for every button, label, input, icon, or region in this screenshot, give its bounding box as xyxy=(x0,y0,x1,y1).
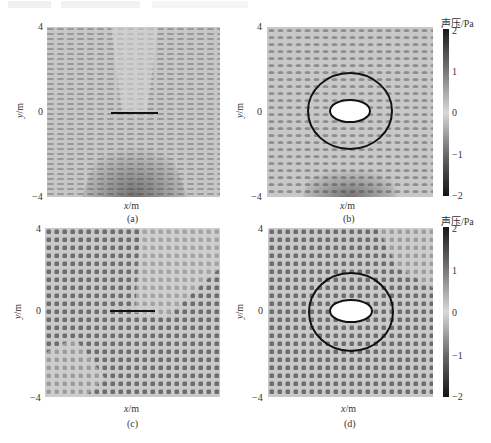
cbar-tick: −1 xyxy=(452,150,463,160)
ylabel: y/m xyxy=(234,103,245,118)
xlabel: x/m xyxy=(124,403,139,414)
ytick-bottom: −4 xyxy=(252,393,263,403)
cbar-tick: −2 xyxy=(452,392,463,402)
colorbar-gradient xyxy=(443,227,449,397)
ylabel: y/m xyxy=(14,103,25,118)
ytick-mid: 0 xyxy=(258,306,263,316)
heatmap-a xyxy=(47,27,220,197)
ylabel: y/m xyxy=(12,304,23,319)
xlabel: x/m xyxy=(341,403,356,414)
cbar-tick: 0 xyxy=(452,308,457,318)
colorbar-title: 声压/Pa xyxy=(441,15,474,30)
subfigure-label: (a) xyxy=(127,213,138,224)
subfigure-label: (b) xyxy=(343,213,355,224)
ytick-top: 4 xyxy=(258,224,263,234)
heatmap-d xyxy=(268,228,433,397)
cbar-tick: −1 xyxy=(452,351,463,361)
xlabel: x/m xyxy=(124,200,139,211)
ytick-bottom: −4 xyxy=(30,393,41,403)
colorbar-gradient xyxy=(443,29,449,196)
cbar-tick: 2 xyxy=(452,26,457,36)
heatmap-c xyxy=(45,228,220,397)
cbar-tick: 1 xyxy=(452,67,457,77)
cloak-inner-ellipse xyxy=(330,300,372,322)
cbar-tick: 1 xyxy=(452,266,457,276)
ytick-mid: 0 xyxy=(257,107,262,117)
ytick-top: 4 xyxy=(36,224,41,234)
ylabel: y/m xyxy=(234,304,245,319)
cbar-tick: −2 xyxy=(452,191,463,201)
truncated-caption-line xyxy=(8,1,248,8)
subfigure-label: (c) xyxy=(127,418,138,429)
heatmap-b xyxy=(267,27,433,197)
cbar-tick: 0 xyxy=(452,108,457,118)
subfigure-label: (d) xyxy=(344,418,356,429)
xlabel: x/m xyxy=(340,200,355,211)
ytick-top: 4 xyxy=(38,22,43,32)
colorbar-title: 声压/Pa xyxy=(441,213,474,228)
cbar-tick: 2 xyxy=(452,224,457,234)
ytick-bottom: −4 xyxy=(32,192,43,202)
ytick-top: 4 xyxy=(257,22,262,32)
ytick-mid: 0 xyxy=(38,107,43,117)
ytick-bottom: −4 xyxy=(251,192,262,202)
ytick-mid: 0 xyxy=(36,306,41,316)
cloak-inner-ellipse xyxy=(330,100,370,122)
